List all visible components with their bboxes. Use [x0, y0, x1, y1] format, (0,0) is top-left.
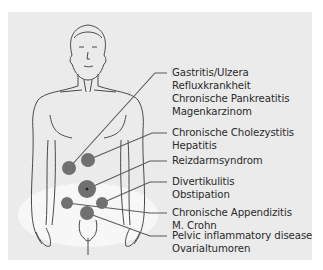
label-ibs: Reizdarmsyndrom: [172, 154, 263, 167]
label-line: Hepatitis: [172, 139, 294, 152]
label-gastric: Gastritis/Ulzera Refluxkrankheit Chronis…: [172, 66, 289, 118]
label-line: Refluxkrankheit: [172, 79, 289, 92]
label-diverticulitis: Divertikulitis Obstipation: [172, 175, 234, 201]
marker-upper-right: [81, 153, 95, 167]
navel-dot: [86, 188, 89, 191]
label-line: Reizdarmsyndrom: [172, 154, 263, 167]
label-line: Magenkarzinom: [172, 105, 289, 118]
label-line: Chronische Appendizitis: [172, 206, 292, 219]
label-line: Ovarialtumoren: [172, 242, 312, 255]
marker-epigastric-left: [62, 161, 76, 175]
label-line: Chronische Cholezystitis: [172, 126, 294, 139]
label-line: Pelvic inflammatory disease: [172, 229, 312, 242]
label-line: Obstipation: [172, 188, 234, 201]
label-line: Chronische Pankreatitis: [172, 92, 289, 105]
marker-lower-left: [61, 197, 73, 209]
label-pelvic: Pelvic inflammatory disease Ovarialtumor…: [172, 229, 312, 255]
label-line: Gastritis/Ulzera: [172, 66, 289, 79]
marker-suprapubic: [80, 206, 94, 220]
label-line: Divertikulitis: [172, 175, 234, 188]
marker-lower-right: [96, 197, 108, 209]
label-biliary: Chronische Cholezystitis Hepatitis: [172, 126, 294, 152]
